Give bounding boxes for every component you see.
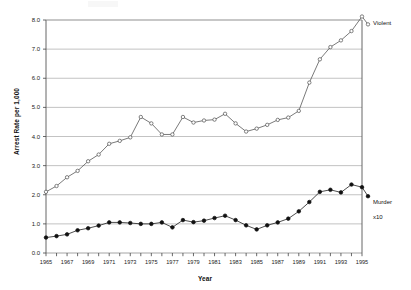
- data-point: [339, 39, 342, 42]
- data-point: [360, 185, 364, 189]
- data-point: [118, 139, 121, 142]
- data-point: [286, 217, 290, 221]
- data-point: [329, 45, 332, 48]
- data-point: [150, 222, 154, 226]
- data-point: [366, 23, 369, 26]
- data-point: [65, 176, 68, 179]
- data-point: [76, 228, 80, 232]
- data-point: [255, 127, 258, 130]
- data-point: [244, 224, 248, 228]
- data-point: [108, 142, 111, 145]
- data-point: [139, 115, 142, 118]
- data-point: [192, 121, 195, 124]
- series-label-murder-line1: Murder: [373, 199, 392, 205]
- data-point: [55, 184, 58, 187]
- data-point: [97, 153, 100, 156]
- data-point: [265, 224, 269, 228]
- data-point: [86, 226, 90, 230]
- data-point: [244, 130, 247, 133]
- series-label-murder: Murder x10: [373, 191, 392, 221]
- data-point: [297, 210, 301, 214]
- data-point: [129, 136, 132, 139]
- data-point: [86, 160, 89, 163]
- data-point: [118, 221, 122, 225]
- data-point: [55, 234, 59, 238]
- series-label-murder-line2: x10: [373, 214, 383, 220]
- data-point: [223, 112, 226, 115]
- plot-canvas: [0, 0, 411, 290]
- data-point: [65, 233, 69, 237]
- data-point: [192, 220, 196, 224]
- data-point: [76, 169, 79, 172]
- data-point: [255, 228, 259, 232]
- data-point: [350, 29, 353, 32]
- data-point: [139, 222, 143, 226]
- data-point: [350, 183, 354, 187]
- data-point: [360, 15, 363, 18]
- data-point: [44, 236, 48, 240]
- data-point: [366, 194, 370, 198]
- data-point: [44, 190, 47, 193]
- series-label-violent: Violent: [373, 20, 391, 28]
- data-point: [160, 221, 164, 225]
- data-point: [297, 109, 300, 112]
- data-point: [276, 221, 280, 225]
- data-point: [329, 188, 333, 192]
- data-point: [234, 218, 238, 222]
- data-point: [213, 216, 217, 220]
- data-point: [276, 118, 279, 121]
- data-point: [202, 219, 206, 223]
- data-point: [150, 122, 153, 125]
- data-point: [213, 118, 216, 121]
- data-point: [234, 122, 237, 125]
- data-point: [181, 218, 185, 222]
- data-point: [181, 115, 184, 118]
- data-point: [202, 119, 205, 122]
- data-point: [171, 133, 174, 136]
- data-point: [223, 214, 227, 218]
- data-point: [97, 224, 101, 228]
- data-point: [308, 200, 312, 204]
- data-point: [318, 58, 321, 61]
- arrest-rate-line-chart: Arrest Rate per 1,000 Year 0.01.02.03.04…: [0, 0, 411, 290]
- data-point: [160, 133, 163, 136]
- data-point: [287, 116, 290, 119]
- data-point: [308, 81, 311, 84]
- data-point: [128, 221, 132, 225]
- data-point: [171, 226, 175, 230]
- data-point: [266, 123, 269, 126]
- data-point: [107, 221, 111, 225]
- data-point: [318, 190, 322, 194]
- data-point: [339, 191, 343, 195]
